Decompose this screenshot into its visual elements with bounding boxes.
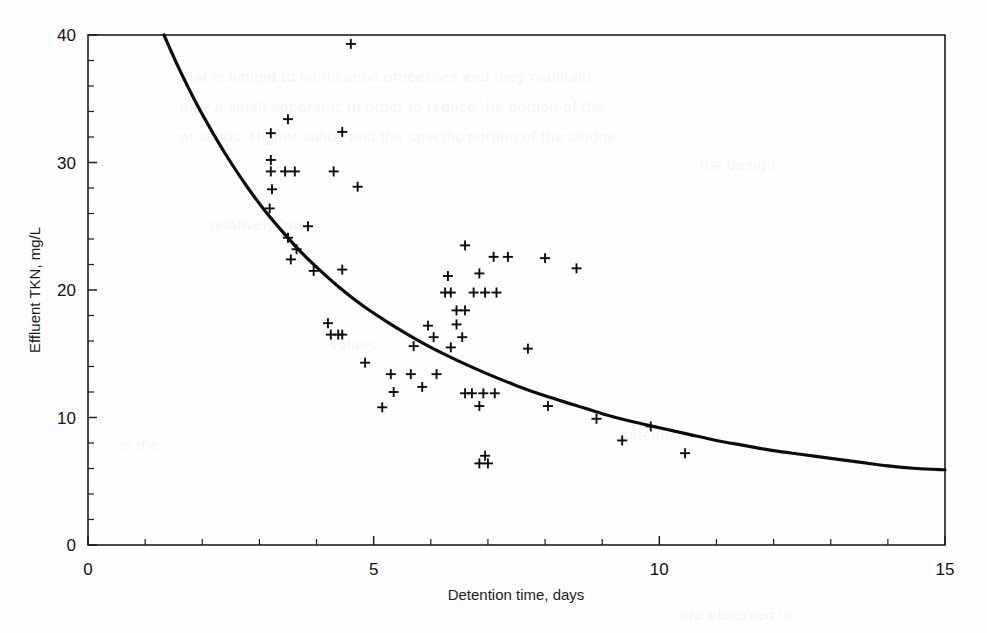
data-point bbox=[417, 382, 427, 392]
data-point bbox=[503, 252, 513, 262]
data-point bbox=[460, 240, 470, 250]
x-axis-tick-labels: 051015 bbox=[83, 560, 954, 579]
data-point bbox=[323, 318, 333, 328]
fitted-curve bbox=[164, 35, 945, 470]
y-tick-label: 20 bbox=[57, 281, 76, 300]
data-point bbox=[443, 271, 453, 281]
data-point bbox=[474, 401, 484, 411]
y-tick-label: 40 bbox=[57, 26, 76, 45]
scatter-chart: 010203040 051015 Detention time, days Ef… bbox=[0, 0, 987, 633]
data-point bbox=[452, 319, 462, 329]
data-point bbox=[389, 387, 399, 397]
data-point bbox=[337, 127, 347, 137]
data-point bbox=[266, 128, 276, 138]
data-point bbox=[337, 265, 347, 275]
data-point bbox=[286, 254, 296, 264]
x-tick-label: 5 bbox=[369, 560, 378, 579]
data-point bbox=[680, 448, 690, 458]
data-point bbox=[480, 288, 490, 298]
data-point bbox=[478, 388, 488, 398]
y-tick-label: 0 bbox=[67, 536, 76, 555]
data-point bbox=[474, 458, 484, 468]
data-point bbox=[280, 166, 290, 176]
data-point bbox=[432, 369, 442, 379]
data-point bbox=[492, 288, 502, 298]
plot-frame bbox=[88, 35, 945, 545]
data-point bbox=[303, 221, 313, 231]
x-tick-label: 10 bbox=[650, 560, 669, 579]
data-point bbox=[360, 358, 370, 368]
y-tick-label: 30 bbox=[57, 154, 76, 173]
data-point bbox=[267, 184, 277, 194]
x-axis-ticks bbox=[88, 536, 945, 545]
data-point bbox=[452, 305, 462, 315]
y-axis-title: Effluent TKN, mg/L bbox=[26, 227, 43, 353]
data-point bbox=[290, 166, 300, 176]
figure-page: that is limited to nitrification process… bbox=[0, 0, 987, 633]
data-point bbox=[353, 182, 363, 192]
data-point bbox=[474, 268, 484, 278]
data-point bbox=[460, 305, 470, 315]
data-point bbox=[423, 321, 433, 331]
data-point bbox=[489, 252, 499, 262]
data-point bbox=[409, 341, 419, 351]
data-point bbox=[266, 155, 276, 165]
data-point bbox=[469, 288, 479, 298]
x-tick-label: 15 bbox=[936, 560, 955, 579]
data-point bbox=[406, 369, 416, 379]
data-point bbox=[617, 435, 627, 445]
data-point bbox=[490, 388, 500, 398]
y-axis-ticks bbox=[88, 35, 97, 545]
y-axis-tick-labels: 010203040 bbox=[57, 26, 76, 555]
data-point bbox=[446, 288, 456, 298]
y-tick-label: 10 bbox=[57, 409, 76, 428]
data-point bbox=[283, 114, 293, 124]
data-point bbox=[467, 388, 477, 398]
data-point bbox=[646, 421, 656, 431]
data-point bbox=[329, 166, 339, 176]
data-point bbox=[457, 332, 467, 342]
data-point bbox=[446, 342, 456, 352]
data-point bbox=[346, 39, 356, 49]
data-point bbox=[429, 332, 439, 342]
x-tick-label: 0 bbox=[83, 560, 92, 579]
data-point bbox=[266, 166, 276, 176]
data-point bbox=[523, 344, 533, 354]
data-point bbox=[540, 253, 550, 263]
x-axis-title: Detention time, days bbox=[448, 586, 585, 603]
data-point-markers bbox=[265, 39, 690, 468]
data-point bbox=[571, 263, 581, 273]
data-point bbox=[386, 369, 396, 379]
data-point bbox=[377, 402, 387, 412]
data-point bbox=[543, 401, 553, 411]
data-point bbox=[591, 414, 601, 424]
